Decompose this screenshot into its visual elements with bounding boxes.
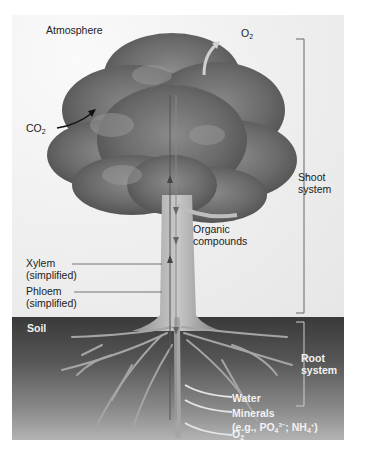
co2-subscript: 2: [42, 128, 46, 135]
organic-compounds-label: Organic compounds: [193, 223, 247, 247]
co2-label: CO2: [26, 122, 46, 138]
minerals-line1: Minerals: [232, 407, 318, 419]
o2-root-subscript: 2: [240, 434, 244, 440]
po-subscript: 4: [275, 427, 279, 434]
o2-top-label: O2: [241, 27, 253, 43]
shoot-system-label: Shoot system: [298, 171, 331, 195]
o2-root-label: O2: [232, 428, 244, 440]
atmosphere-label: Atmosphere: [46, 24, 103, 36]
canopy: [47, 33, 297, 223]
tree-diagram-frame: Atmosphere CO2 O2 Shoot system Organic c…: [12, 15, 344, 440]
nh-subscript: 4: [307, 427, 311, 434]
minerals-examples: (e.g., PO43−; NH4+): [232, 419, 318, 437]
tree-illustration: [12, 15, 344, 440]
o2-subscript: 2: [249, 33, 253, 40]
minerals-label: Minerals (e.g., PO43−; NH4+): [232, 407, 318, 437]
shoot-line2: system: [298, 183, 331, 195]
root-system-label: Root system: [301, 352, 337, 376]
organic-line2: compounds: [193, 235, 247, 247]
minerals-sep: ; NH: [285, 421, 307, 433]
o2-base: O: [241, 27, 249, 39]
soil-label: Soil: [27, 322, 46, 334]
o2-root-base: O: [232, 428, 240, 440]
water-label: Water: [232, 392, 261, 404]
xylem-line2: (simplified): [26, 269, 77, 281]
xylem-line1: Xylem: [26, 257, 77, 269]
phloem-line2: (simplified): [26, 297, 77, 309]
shoot-line1: Shoot: [298, 171, 331, 183]
phloem-line1: Phloem: [26, 285, 77, 297]
root-line2: system: [301, 364, 337, 376]
root-line1: Root: [301, 352, 337, 364]
phloem-label: Phloem (simplified): [26, 285, 77, 309]
xylem-label: Xylem (simplified): [26, 257, 77, 281]
co2-base: CO: [26, 122, 42, 134]
organic-line1: Organic: [193, 223, 247, 235]
minerals-close: ): [314, 421, 318, 433]
